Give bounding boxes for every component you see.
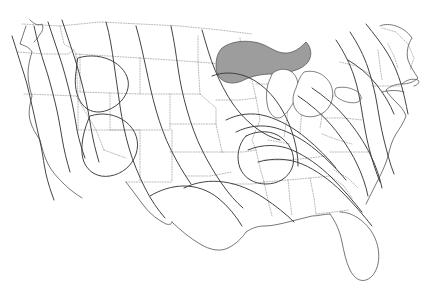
us-contour-map-svg	[0, 0, 440, 302]
contour-map-figure	[0, 0, 440, 302]
